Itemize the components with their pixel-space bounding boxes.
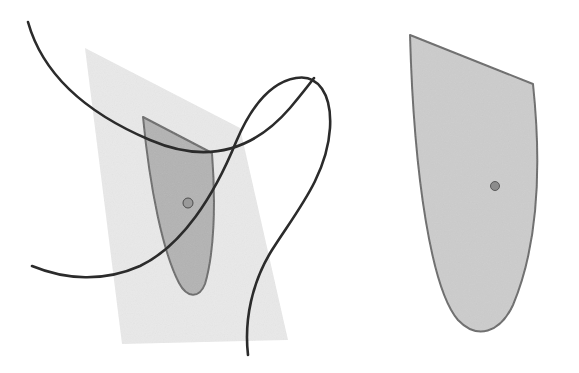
patch-point-left (183, 198, 193, 208)
right-panel (410, 35, 537, 331)
figure-canvas (0, 0, 579, 373)
figure-root (0, 0, 579, 373)
left-panel (28, 22, 330, 355)
surface-patch-right (410, 35, 537, 331)
patch-point-right (491, 182, 500, 191)
